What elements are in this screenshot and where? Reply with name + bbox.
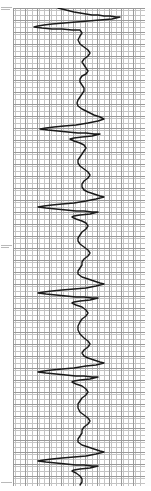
right-margin <box>145 0 151 491</box>
strip-chart-page <box>0 0 151 491</box>
margin-tick-mark <box>1 247 9 248</box>
top-margin <box>0 0 151 8</box>
margin-tick-mark <box>1 7 12 8</box>
margin-tick-mark <box>1 482 12 483</box>
bottom-margin <box>0 486 151 491</box>
margin-tick-mark <box>1 9 10 10</box>
graph-paper-grid <box>13 8 145 486</box>
margin-tick-mark <box>1 245 12 246</box>
